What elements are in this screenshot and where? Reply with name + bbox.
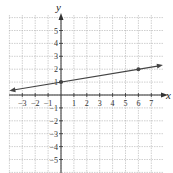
svg-text:2: 2 xyxy=(85,99,89,108)
svg-text:−5: −5 xyxy=(49,156,58,165)
svg-text:5: 5 xyxy=(54,27,58,36)
svg-text:7: 7 xyxy=(149,99,153,108)
svg-text:−2: −2 xyxy=(49,117,58,126)
axes xyxy=(9,13,168,173)
grid-lines xyxy=(9,15,163,173)
svg-text:−2: −2 xyxy=(31,99,40,108)
svg-text:−1: −1 xyxy=(49,104,58,113)
svg-text:2: 2 xyxy=(54,65,58,74)
svg-text:−3: −3 xyxy=(18,99,27,108)
svg-text:4: 4 xyxy=(54,39,58,48)
svg-text:3: 3 xyxy=(54,52,58,61)
x-axis-label: x xyxy=(165,89,171,101)
svg-text:−3: −3 xyxy=(49,130,58,139)
svg-text:4: 4 xyxy=(111,99,115,108)
svg-text:5: 5 xyxy=(124,99,128,108)
y-axis-label: y xyxy=(55,1,61,13)
svg-text:6: 6 xyxy=(136,99,140,108)
coordinate-plane: −3−2−1123456754321−1−2−3−4−5 x y xyxy=(0,0,173,173)
data-line xyxy=(9,64,163,93)
svg-text:3: 3 xyxy=(98,99,102,108)
svg-text:−4: −4 xyxy=(49,143,58,152)
svg-text:1: 1 xyxy=(72,99,76,108)
